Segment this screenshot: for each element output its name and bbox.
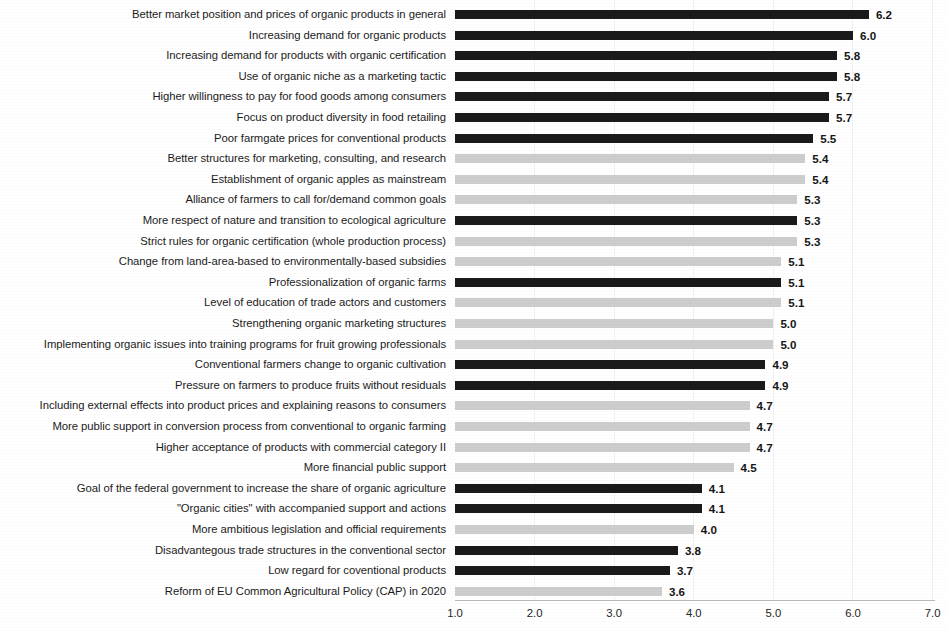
bar-category-label: More ambitious legislation and official … [6,519,446,540]
bar-track [455,148,805,169]
bar-value-label: 4.7 [757,416,773,437]
bar [455,51,837,60]
bar [455,566,670,575]
bar-category-label: Establishment of organic apples as mains… [6,169,446,190]
bar-track [455,498,702,519]
bar-value-label: 4.0 [701,519,717,540]
bar-value-label: 5.8 [844,45,860,66]
bar-row: Professionalization of organic farms5.1 [0,272,946,293]
x-axis-tick-label: 1.0 [447,607,463,619]
bar [455,443,750,452]
bar-row: "Organic cities" with accompanied suppor… [0,498,946,519]
bar-category-label: Poor farmgate prices for conventional pr… [6,128,446,149]
bar-category-label: Level of education of trade actors and c… [6,292,446,313]
bar-track [455,313,773,334]
bar-rows-container: Better market position and prices of org… [0,0,946,600]
bar [455,401,750,410]
bar-row: Use of organic niche as a marketing tact… [0,66,946,87]
bar [455,525,694,534]
bar-row: Better structures for marketing, consult… [0,148,946,169]
bar-value-label: 5.3 [804,210,820,231]
bar-category-label: More respect of nature and transition to… [6,210,446,231]
bar [455,340,773,349]
bar-category-label: Strengthening organic marketing structur… [6,313,446,334]
bar-track [455,416,750,437]
bar-category-label: Strict rules for organic certification (… [6,231,446,252]
x-axis-tick-label: 5.0 [766,607,782,619]
bar-category-label: Low regard for coventional products [6,560,446,581]
bar-value-label: 5.4 [812,169,828,190]
bar-track [455,189,797,210]
bar-value-label: 5.8 [844,66,860,87]
bar [455,31,853,40]
bar-value-label: 4.1 [709,478,725,499]
bar-value-label: 5.4 [812,148,828,169]
bar-row: Strengthening organic marketing structur… [0,313,946,334]
bar-track [455,66,837,87]
bar [455,72,837,81]
bar [455,257,781,266]
bar-track [455,272,781,293]
bar-track [455,107,829,128]
bar [455,463,734,472]
bar-track [455,128,813,149]
bar-track [455,334,773,355]
bar-value-label: 5.0 [780,334,796,355]
bar-row: Pressure on farmers to produce fruits wi… [0,375,946,396]
bar [455,134,813,143]
bar-track [455,292,781,313]
bar-category-label: Use of organic niche as a marketing tact… [6,66,446,87]
bar-track [455,478,702,499]
x-axis-tick-label: 6.0 [845,607,861,619]
bar-track [455,540,678,561]
bar-row: Focus on product diversity in food retai… [0,107,946,128]
bar-track [455,4,869,25]
bar-category-label: Increasing demand for organic products [6,25,446,46]
bar [455,113,829,122]
bar-value-label: 5.1 [788,251,804,272]
bar-category-label: Better market position and prices of org… [6,4,446,25]
bar-track [455,519,694,540]
bar-row: Low regard for coventional products3.7 [0,560,946,581]
bar-value-label: 6.0 [860,25,876,46]
bar-category-label: Implementing organic issues into trainin… [6,334,446,355]
bar [455,237,797,246]
bar-value-label: 3.6 [669,581,685,602]
bar-value-label: 4.1 [709,498,725,519]
x-axis-tick-label: 3.0 [606,607,622,619]
bar-category-label: "Organic cities" with accompanied suppor… [6,498,446,519]
bar-category-label: Focus on product diversity in food retai… [6,107,446,128]
bar-track [455,395,750,416]
bar-category-label: Pressure on farmers to produce fruits wi… [6,375,446,396]
bar-value-label: 4.7 [757,395,773,416]
bar-category-label: Professionalization of organic farms [6,272,446,293]
x-axis-tick-label: 4.0 [686,607,702,619]
bar-row: More respect of nature and transition to… [0,210,946,231]
bar [455,319,773,328]
bar-row: Strict rules for organic certification (… [0,231,946,252]
bar-track [455,581,662,602]
bar [455,422,750,431]
bar-row: Goal of the federal government to increa… [0,478,946,499]
bar-track [455,375,765,396]
bar-category-label: More financial public support [6,457,446,478]
bar-track [455,210,797,231]
bar-value-label: 5.0 [780,313,796,334]
x-axis-tick-label: 7.0 [925,607,941,619]
bar [455,298,781,307]
bar [455,154,805,163]
bar-track [455,169,805,190]
x-axis-line [455,600,935,601]
bar-row: Poor farmgate prices for conventional pr… [0,128,946,149]
bar-category-label: Alliance of farmers to call for/demand c… [6,189,446,210]
bar-row: Conventional farmers change to organic c… [0,354,946,375]
bar-track [455,231,797,252]
bar-row: Higher acceptance of products with comme… [0,437,946,458]
bar-track [455,437,750,458]
bar-row: Level of education of trade actors and c… [0,292,946,313]
bar-value-label: 4.7 [757,437,773,458]
bar [455,278,781,287]
bar [455,216,797,225]
bar [455,360,765,369]
bar-row: Higher willingness to pay for food goods… [0,86,946,107]
